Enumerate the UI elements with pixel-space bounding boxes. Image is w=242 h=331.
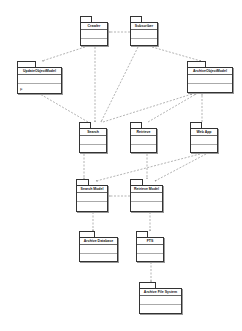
- edge-crawler-update: [42, 47, 85, 61]
- package-archive-file-system[interactable]: Archive File System: [139, 282, 182, 314]
- package-label: Retrieve Model: [131, 186, 162, 193]
- package-search[interactable]: Search: [79, 122, 107, 153]
- edge-subscriber-archiveobj: [152, 47, 201, 61]
- package-crawler[interactable]: Crawler: [80, 16, 108, 46]
- package-label: ArchiveObjectModel: [188, 68, 232, 75]
- package-archive-object-model[interactable]: ArchiveObjectModel: [187, 61, 233, 93]
- package-marker: F: [20, 87, 22, 92]
- package-subscriber[interactable]: Subscriber: [130, 16, 158, 46]
- package-label: Web App: [191, 129, 217, 136]
- package-label: Retrieve: [131, 129, 156, 136]
- package-retrieve-model[interactable]: Retrieve Model: [130, 179, 163, 212]
- package-label: Search: [80, 129, 106, 136]
- package-label: Archive File System: [140, 289, 181, 296]
- package-retrieve[interactable]: Retrieve: [130, 122, 157, 153]
- package-label: Archive Database: [80, 238, 117, 245]
- package-label: UpdateObjectModel: [18, 68, 61, 75]
- package-update-object-model[interactable]: UpdateObjectModel F: [17, 61, 62, 94]
- package-label: Search Model: [77, 186, 107, 193]
- edge-webapp-searchmodel: [96, 154, 200, 181]
- edge-subscriber-search: [101, 47, 138, 122]
- package-archive-database[interactable]: Archive Database: [79, 231, 118, 262]
- package-web-app[interactable]: Web App: [190, 122, 218, 153]
- edge-search-update: [40, 94, 88, 122]
- package-label: Subscriber: [131, 23, 157, 30]
- edge-search-archiveobj: [103, 94, 192, 122]
- package-label: Crawler: [81, 23, 107, 30]
- package-label: FTS: [137, 238, 163, 245]
- package-fts[interactable]: FTS: [136, 231, 164, 262]
- edge-retrieve-archiveobj: [148, 94, 196, 122]
- edge-webapp-retrievemodel: [155, 154, 206, 181]
- package-search-model[interactable]: Search Model: [76, 179, 108, 212]
- dependency-edges: [0, 0, 242, 331]
